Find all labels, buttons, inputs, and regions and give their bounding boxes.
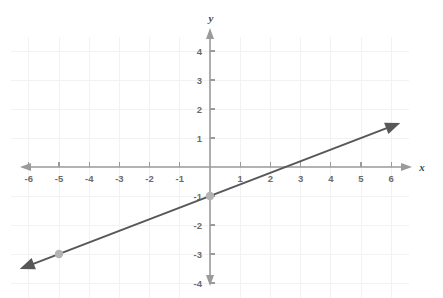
x-tick-label: 2	[268, 173, 273, 184]
coordinate-plane-figure: -6-5-4-3-2-1123456 4321-1-2-3-4 x y	[0, 0, 443, 298]
x-tick-label: 3	[298, 173, 303, 184]
y-axis-label: y	[207, 12, 214, 24]
x-tick-label: -4	[85, 173, 94, 184]
y-tick-label: -2	[194, 220, 202, 231]
y-tick-label: 1	[197, 133, 203, 144]
y-tick-label: 2	[197, 104, 202, 115]
x-tick-label: 5	[358, 173, 364, 184]
y-tick-label: 3	[197, 75, 202, 86]
y-axis	[206, 28, 214, 286]
graph-canvas: -6-5-4-3-2-1123456 4321-1-2-3-4 x y	[0, 0, 443, 298]
plotted-point	[206, 192, 214, 200]
x-axis-label: x	[418, 161, 425, 173]
x-axis-arrow-right	[401, 163, 412, 171]
x-tick-label: -1	[176, 173, 185, 184]
y-tick-label: 4	[197, 46, 203, 57]
x-tick-label: -3	[115, 173, 123, 184]
x-tick-label: -6	[25, 173, 33, 184]
plotted-point	[55, 250, 63, 258]
x-tick-label: -2	[145, 173, 153, 184]
x-tick-label: 6	[389, 173, 394, 184]
x-tick-label: 4	[328, 173, 334, 184]
line-arrow-lower-left	[20, 258, 36, 269]
y-tick-label: -4	[194, 278, 203, 289]
x-tick-label: -5	[55, 173, 64, 184]
line-arrow-upper-right	[384, 123, 400, 134]
y-axis-arrow-up	[206, 28, 214, 39]
x-axis	[20, 163, 412, 171]
y-tick-label: -3	[194, 249, 202, 260]
y-axis-arrow-down	[206, 275, 214, 286]
